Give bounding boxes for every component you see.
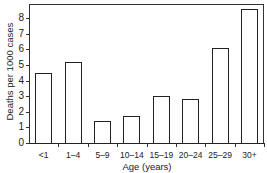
bar-1 [65, 62, 82, 143]
bar-0 [35, 73, 52, 143]
y-tick [26, 112, 30, 113]
x-tick [205, 143, 206, 147]
x-tick-label: 15–19 [146, 150, 176, 160]
bar-chart: 012345678 <11–45–910–1415–1920–2425–2930… [0, 0, 267, 173]
bar-7 [241, 9, 258, 143]
x-tick [235, 143, 236, 147]
bar-4 [153, 96, 170, 143]
y-tick-label: 8 [14, 13, 24, 23]
bar-3 [123, 116, 140, 143]
y-axis-title: Deaths per 1000 cases [4, 31, 15, 121]
x-tick [147, 143, 148, 147]
x-tick [264, 143, 265, 147]
x-tick [58, 143, 59, 147]
y-tick-label: 5 [14, 60, 24, 70]
bar-2 [94, 121, 111, 143]
x-tick-label: 1–4 [58, 150, 88, 160]
y-tick-label: 6 [14, 44, 24, 54]
x-tick-label: 10–14 [117, 150, 147, 160]
x-tick-label: <1 [29, 150, 59, 160]
x-tick [117, 143, 118, 147]
y-tick-label: 1 [14, 122, 24, 132]
x-tick-label: 5–9 [88, 150, 118, 160]
y-tick [26, 18, 30, 19]
y-tick-label: 7 [14, 29, 24, 39]
x-tick-label: 30+ [235, 150, 265, 160]
y-tick-label: 3 [14, 91, 24, 101]
y-tick-label: 4 [14, 76, 24, 86]
x-tick [88, 143, 89, 147]
y-tick [26, 65, 30, 66]
y-tick [26, 143, 30, 144]
x-tick-label: 25–29 [205, 150, 235, 160]
y-tick [26, 49, 30, 50]
x-tick-label: 20–24 [176, 150, 206, 160]
bar-6 [212, 48, 229, 143]
y-tick [26, 81, 30, 82]
y-tick [26, 96, 30, 97]
x-tick [176, 143, 177, 147]
x-axis-title: Age (years) [29, 161, 265, 172]
y-tick [26, 34, 30, 35]
y-tick [26, 127, 30, 128]
y-tick-label: 0 [14, 138, 24, 148]
bar-5 [182, 99, 199, 143]
y-tick-label: 2 [14, 107, 24, 117]
